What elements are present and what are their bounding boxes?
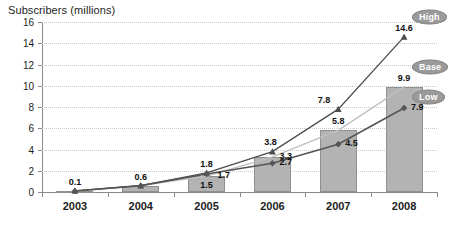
point-label: 0.6 — [134, 172, 147, 182]
point-label: 1.8 — [200, 159, 213, 169]
subscribers-chart: Subscribers (millions) 0246810121416 200… — [0, 0, 456, 226]
point-label: 5.8 — [332, 116, 345, 126]
point-label: 1.7 — [218, 170, 231, 180]
point-label: 3.8 — [264, 137, 277, 147]
legend-badge-high[interactable]: High — [412, 9, 447, 24]
point-label: 1.5 — [200, 180, 213, 190]
marker-high — [401, 33, 408, 39]
marker-low — [335, 141, 341, 147]
point-label: 2.7 — [279, 157, 292, 167]
line-series-layer — [0, 0, 456, 226]
legend-badge-low[interactable]: Low — [412, 90, 445, 105]
point-label: 7.8 — [318, 95, 331, 105]
point-label: 14.6 — [395, 23, 413, 33]
point-label: 9.9 — [398, 73, 411, 83]
marker-low — [401, 105, 407, 111]
line-low — [75, 108, 404, 191]
marker-high — [269, 148, 276, 154]
legend-badge-base[interactable]: Base — [412, 59, 448, 74]
point-label: 0.1 — [69, 177, 82, 187]
point-label: 4.5 — [345, 138, 358, 148]
marker-low — [269, 160, 275, 166]
